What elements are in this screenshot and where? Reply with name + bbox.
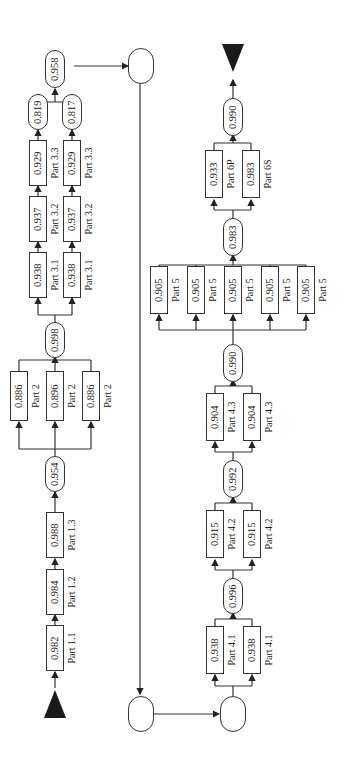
part-1-2-label: Part 1.2	[65, 569, 79, 615]
part-5-box-3: 0.905	[224, 266, 242, 314]
part-4-2-label-a: Part 4.2	[225, 510, 239, 558]
stage2-result-oval: 0.998	[45, 322, 65, 358]
part-2-label-a: Part 2	[29, 371, 43, 421]
part-3-3-label-a: Part 3.3	[48, 140, 62, 186]
part-3-3-box-b: 0.929	[63, 140, 81, 186]
stage4-2-result-oval: 0.992	[223, 460, 243, 498]
stage4-3-result-oval: 0.990	[223, 344, 243, 382]
part-5-box-1: 0.905	[150, 266, 168, 314]
part-3-2-box-b: 0.937	[63, 196, 81, 242]
part-4-3-box-b: 0.904	[243, 393, 261, 441]
connector-terminal-top	[128, 48, 154, 84]
branch-b-result-oval: 0.817	[62, 94, 82, 130]
part-6p-box: 0.933	[205, 150, 223, 198]
part-3-2-label-a: Part 3.2	[48, 196, 62, 242]
part-2-box-a: 0.886	[10, 371, 28, 421]
reliability-block-diagram: 0.982 Part 1.1 0.984 Part 1.2 0.988 Part…	[0, 0, 344, 764]
part-3-2-label-b: Part 3.2	[82, 196, 96, 242]
part-3-3-label-b: Part 3.3	[82, 140, 96, 186]
part-1-2-box: 0.984	[46, 569, 64, 615]
branch-a-result-oval: 0.819	[28, 94, 48, 130]
stage3-result-oval: 0.958	[45, 50, 65, 88]
part-4-1-box-b: 0.938	[243, 626, 261, 674]
stage4-1-result-oval: 0.996	[223, 578, 243, 614]
stage6-result-oval: 0.990	[223, 98, 243, 136]
part-3-1-label-a: Part 3.1	[48, 252, 62, 298]
connector-terminal-bottom-right	[220, 696, 246, 732]
part-4-3-label-a: Part 4.3	[225, 393, 239, 441]
part-5-label-2: Part 5	[206, 266, 220, 314]
part-4-1-label-b: Part 4.1	[262, 626, 276, 674]
part-5-label-4: Part 5	[280, 266, 294, 314]
connector-terminal-bottom-left	[128, 696, 154, 732]
part-2-box-c: 0.886	[82, 371, 100, 421]
part-4-1-label-a: Part 4.1	[225, 626, 239, 674]
part-1-3-box: 0.988	[46, 512, 64, 558]
part-4-2-box-b: 0.915	[243, 510, 261, 558]
part-5-label-3: Part 5	[243, 266, 257, 314]
part-5-label-5: Part 5	[316, 266, 330, 314]
start-triangle-icon	[44, 690, 66, 718]
part-3-1-box-a: 0.938	[29, 252, 47, 298]
part-6s-label: Part 6S	[261, 150, 275, 198]
part-5-label-1: Part 5	[169, 266, 183, 314]
part-3-1-box-b: 0.938	[63, 252, 81, 298]
stage5-result-oval: 0.983	[223, 218, 243, 256]
part-1-1-box: 0.982	[46, 625, 64, 671]
part-3-1-label-b: Part 3.1	[82, 252, 96, 298]
part-1-1-label: Part 1.1	[65, 625, 79, 671]
part-5-box-2: 0.905	[187, 266, 205, 314]
part-2-label-b: Part 2	[65, 371, 79, 421]
part-2-label-c: Part 2	[101, 371, 115, 421]
part-1-3-label: Part 1.3	[65, 512, 79, 558]
part-5-box-5: 0.905	[297, 266, 315, 314]
part-3-3-box-a: 0.929	[29, 140, 47, 186]
part-4-1-box-a: 0.938	[206, 626, 224, 674]
end-triangle-icon	[222, 44, 244, 72]
stage1-result-oval: 0.954	[45, 456, 65, 492]
part-4-2-label-b: Part 4.2	[262, 510, 276, 558]
part-6p-label: Part 6P	[224, 150, 238, 198]
part-6s-box: 0.983	[242, 150, 260, 198]
part-3-2-box-a: 0.937	[29, 196, 47, 242]
part-4-2-box-a: 0.915	[206, 510, 224, 558]
part-2-box-b: 0.896	[46, 371, 64, 421]
part-5-box-4: 0.905	[261, 266, 279, 314]
part-4-3-label-b: Part 4.3	[262, 393, 276, 441]
part-4-3-box-a: 0.904	[206, 393, 224, 441]
